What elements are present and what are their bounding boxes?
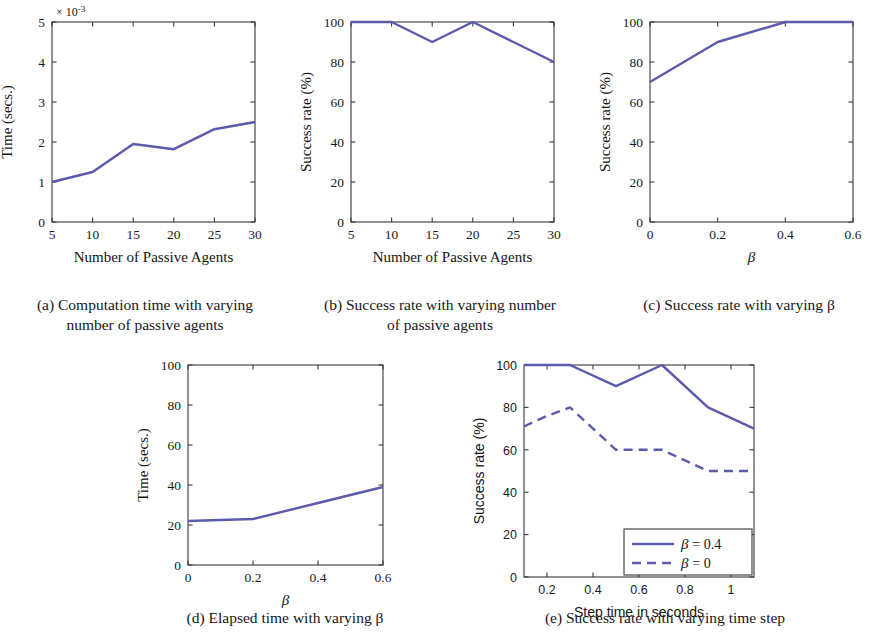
y-tick-label: 80 (168, 398, 182, 413)
y-axis-label: Success rate (%) (298, 72, 315, 172)
figure-panel-grid: 51015202530012345× 10-3Number of Passive… (0, 0, 885, 643)
y-tick-label: 40 (168, 478, 182, 493)
subplot-b: 51015202530020406080100Number of Passive… (293, 0, 583, 255)
y-tick-label: 80 (630, 55, 644, 70)
subplot-a: 51015202530012345× 10-3Number of Passive… (0, 0, 290, 255)
x-tick-label: 30 (547, 227, 561, 242)
y-tick-label: 40 (503, 486, 517, 500)
y-tick-label: 20 (630, 175, 644, 190)
y-tick-label: 100 (161, 358, 182, 373)
x-tick-label: 5 (348, 227, 355, 242)
y-tick-label: 4 (38, 55, 45, 70)
x-tick-label: 15 (425, 227, 439, 242)
x-tick-label: 0 (647, 227, 654, 242)
y-tick-label: 20 (168, 518, 182, 533)
y-tick-label: 1 (38, 175, 45, 190)
y-tick-label: 0 (38, 215, 45, 230)
x-tick-label: 30 (248, 227, 262, 242)
caption-c-line-1: (c) Success rate with varying β (596, 295, 882, 315)
plot-box (188, 365, 383, 565)
y-tick-label: 0 (174, 558, 181, 573)
y-tick-label: 60 (331, 95, 345, 110)
x-tick-label: 5 (49, 227, 56, 242)
x-tick-label: 0.2 (709, 227, 726, 242)
plot-box (52, 22, 255, 222)
subplot-d: 00.20.40.6020406080100βTime (secs.) (128, 345, 448, 603)
data-series-1 (52, 122, 255, 182)
y-tick-label: 80 (331, 55, 345, 70)
y-tick-label: 0 (337, 215, 344, 230)
subplot-e-chart: 0.20.40.60.81020406080100Step time in se… (468, 345, 838, 607)
caption-b: (b) Success rate with varying number of … (297, 295, 583, 335)
y-axis-label: Success rate (%) (471, 418, 487, 525)
caption-a-line-1: (a) Computation time with varying (4, 295, 286, 315)
x-tick-label: 0.6 (845, 227, 862, 242)
x-tick-label: 0.2 (538, 583, 555, 597)
data-series-1 (524, 365, 754, 429)
x-tick-label: 10 (385, 227, 399, 242)
y-tick-label: 0 (510, 571, 517, 585)
x-axis-label: β (747, 249, 756, 265)
legend-label-1: β = 0.4 (680, 536, 721, 552)
x-tick-label: 25 (507, 227, 521, 242)
data-series-1 (351, 22, 554, 62)
caption-a: (a) Computation time with varying number… (4, 295, 286, 335)
subplot-d-chart: 00.20.40.6020406080100βTime (secs.) (128, 345, 448, 603)
y-axis-label: Time (secs.) (0, 85, 16, 159)
x-tick-label: 0.4 (584, 583, 601, 597)
subplot-e: 0.20.40.60.81020406080100Step time in se… (468, 345, 838, 607)
caption-b-line-2: of passive agents (297, 315, 583, 335)
y-tick-label: 3 (38, 95, 45, 110)
caption-a-line-2: number of passive agents (4, 315, 286, 335)
y-tick-label: 5 (38, 15, 45, 30)
x-tick-label: 0 (185, 570, 192, 585)
subplot-c: 00.20.40.6020406080100βSuccess rate (%) (592, 0, 882, 255)
x-tick-label: 25 (208, 227, 222, 242)
plot-box (650, 22, 853, 222)
y-tick-label: 40 (630, 135, 644, 150)
data-series-1 (650, 22, 853, 82)
y-axis-label: Success rate (%) (597, 72, 614, 172)
y-tick-label: 100 (623, 15, 644, 30)
legend-label-2: β = 0 (680, 555, 711, 571)
plot-box (351, 22, 554, 222)
subplot-c-chart: 00.20.40.6020406080100βSuccess rate (%) (592, 0, 882, 255)
y-tick-label: 100 (324, 15, 345, 30)
y-tick-label: 80 (503, 401, 517, 415)
x-tick-label: 10 (86, 227, 100, 242)
y-tick-label: 2 (38, 135, 45, 150)
x-tick-label: 15 (126, 227, 140, 242)
y-axis-label: Time (secs.) (135, 428, 152, 502)
x-tick-label: 0.4 (777, 227, 794, 242)
x-tick-label: 0.4 (310, 570, 327, 585)
x-tick-label: 0.6 (630, 583, 647, 597)
data-series-1 (188, 487, 383, 521)
x-tick-label: 0.8 (676, 583, 693, 597)
y-tick-label: 20 (503, 528, 517, 542)
y-tick-label: 40 (331, 135, 345, 150)
caption-c: (c) Success rate with varying β (596, 295, 882, 315)
x-tick-label: 1 (728, 583, 735, 597)
x-tick-label: 0.2 (245, 570, 262, 585)
x-axis-label: Number of Passive Agents (74, 249, 234, 265)
caption-e: (e) Success rate with varying time step (480, 608, 850, 628)
caption-e-line-1: (e) Success rate with varying time step (480, 608, 850, 628)
axis-exponent-label: × 10-3 (56, 4, 86, 19)
y-tick-label: 60 (503, 444, 517, 458)
caption-b-line-1: (b) Success rate with varying number (297, 295, 583, 315)
caption-d-line-1: (d) Elapsed time with varying β (120, 608, 450, 628)
x-tick-label: 20 (466, 227, 480, 242)
caption-d: (d) Elapsed time with varying β (120, 608, 450, 628)
data-series-2 (524, 407, 754, 471)
subplot-b-chart: 51015202530020406080100Number of Passive… (293, 0, 583, 255)
y-tick-label: 60 (630, 95, 644, 110)
x-tick-label: 20 (167, 227, 181, 242)
x-tick-label: 0.6 (375, 570, 392, 585)
y-tick-label: 0 (636, 215, 643, 230)
subplot-a-chart: 51015202530012345× 10-3Number of Passive… (0, 0, 290, 255)
x-axis-label: Number of Passive Agents (373, 249, 533, 265)
x-axis-label: β (281, 592, 290, 608)
y-tick-label: 20 (331, 175, 345, 190)
y-tick-label: 100 (496, 359, 517, 373)
y-tick-label: 60 (168, 438, 182, 453)
